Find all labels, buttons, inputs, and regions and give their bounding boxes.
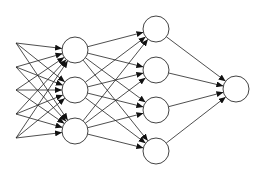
edge-hidden-2-1-to-output-0 [169,73,224,86]
edge-input-1-to-hidden-1-1 [16,67,63,85]
hidden-2-node-1 [143,57,169,83]
hidden-2-node-3 [143,138,169,164]
edge-input-3-to-hidden-1-1 [16,95,63,114]
edge-input-1-to-hidden-1-0 [16,54,63,67]
neural-network-diagram [0,0,262,173]
hidden-2-node-2 [143,97,169,123]
connection-edges [16,32,226,148]
edge-input-1-to-hidden-1-2 [16,67,66,121]
hidden-1-node-0 [62,37,88,63]
edge-hidden-1-1-to-hidden-2-0 [85,37,145,82]
edge-hidden-1-2-to-hidden-2-1 [85,78,145,123]
edge-input-3-to-hidden-1-0 [16,60,66,114]
edge-input-0-to-hidden-1-0 [16,43,62,48]
edge-hidden-2-3-to-output-0 [166,97,225,143]
hidden-1-node-1 [62,77,88,103]
edge-hidden-2-2-to-output-0 [169,92,224,106]
edge-hidden-1-2-to-hidden-2-3 [88,134,144,148]
edge-input-3-to-hidden-1-2 [16,114,63,127]
hidden-2-node-0 [143,16,169,42]
edge-input-4-to-hidden-1-2 [16,133,62,138]
output-node-0 [223,76,249,102]
network-nodes [62,16,249,164]
edge-hidden-1-2-to-hidden-2-0 [83,39,148,121]
hidden-1-node-2 [62,118,88,144]
